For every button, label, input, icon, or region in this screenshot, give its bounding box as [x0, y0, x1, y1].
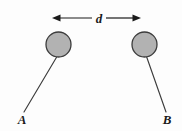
figure-background — [0, 0, 182, 131]
distance-label-d: d — [96, 11, 103, 26]
bob-label-a: A — [17, 112, 27, 127]
bob-label-b: B — [162, 112, 172, 127]
pendulum-bob-b — [132, 32, 157, 57]
figure-canvas: d A B — [0, 0, 182, 131]
pendulum-bob-a — [46, 32, 71, 57]
pendulum-distance-figure: d A B — [0, 0, 182, 131]
